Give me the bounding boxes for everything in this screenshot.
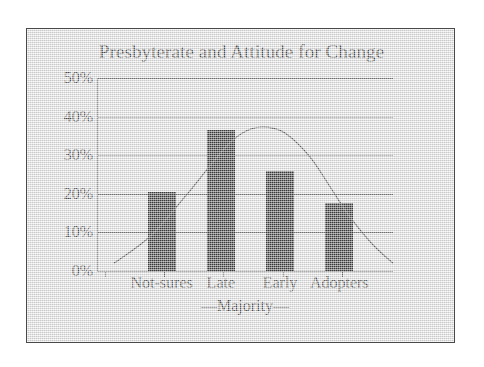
majority-bracket-label: —Majority— bbox=[97, 297, 393, 315]
chart-title: Presbyterate and Attitude for Change bbox=[27, 41, 455, 63]
x-label-late: Late bbox=[207, 274, 235, 292]
x-label-not-sures: Not-sures bbox=[131, 274, 193, 292]
y-tick-label: 30% bbox=[64, 146, 93, 164]
plot-area: 0%10%20%30%40%50% bbox=[97, 78, 393, 271]
y-tick-label: 10% bbox=[64, 223, 93, 241]
x-label-early: Early bbox=[263, 274, 298, 292]
chart-figure-frame: Presbyterate and Attitude for Change 0%1… bbox=[26, 28, 455, 343]
y-tick-label: 20% bbox=[64, 185, 93, 203]
x-label-adopters: Adopters bbox=[310, 274, 369, 292]
y-tick-label: 50% bbox=[64, 69, 93, 87]
y-tick-label: 40% bbox=[64, 108, 93, 126]
normal-distribution-curve bbox=[97, 78, 393, 272]
y-tick-label: 0% bbox=[72, 262, 93, 280]
x-axis-labels: Not-suresLateEarlyAdopters bbox=[97, 274, 393, 298]
